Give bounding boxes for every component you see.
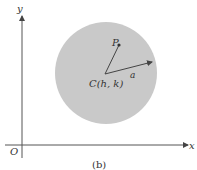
y-axis-label: y [16,3,23,14]
radius-label: a [130,70,135,80]
diagram-canvas: y x O P a C(h, k) (b) [0,0,197,170]
point-p-label: P [111,37,119,48]
circle-diagram: y x O P a C(h, k) (b) [0,0,197,170]
x-axis-label: x [189,140,195,151]
origin-label: O [10,146,18,157]
center-label: C(h, k) [89,78,123,89]
figure-caption: (b) [92,159,106,170]
